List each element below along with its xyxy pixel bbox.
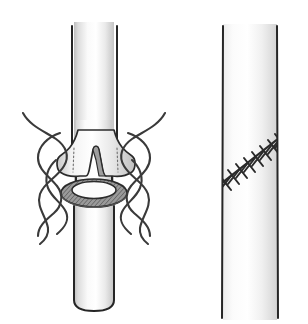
vessel-fill-right — [223, 24, 277, 320]
anastomosis-figure — [0, 0, 308, 324]
suture-threads-left — [23, 113, 67, 244]
illustration-canvas — [0, 0, 308, 324]
suture-threads-right — [121, 113, 165, 244]
left-panel — [23, 22, 165, 312]
right-panel — [220, 24, 286, 320]
suture-thread-right-2 — [127, 133, 150, 236]
ring-inner-opening — [72, 182, 116, 199]
vessel-left-edge-right-panel — [222, 26, 223, 318]
suture-thread-left-2 — [38, 133, 61, 236]
vessel-right-edge-right-panel — [277, 26, 278, 318]
anastomosis-ring-connector — [61, 179, 127, 207]
